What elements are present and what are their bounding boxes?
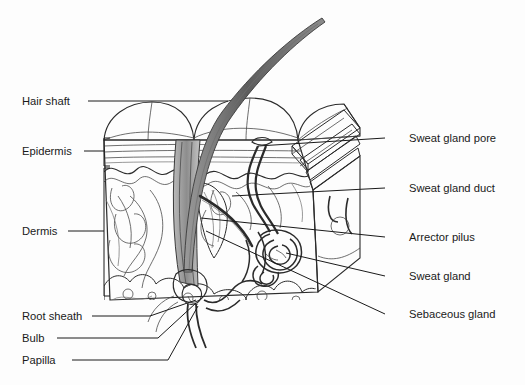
label-root-sheath[interactable]: Root sheath <box>22 300 196 322</box>
label-sebaceous-gland-text: Sebaceous gland <box>409 308 495 320</box>
label-hair-shaft[interactable]: Hair shaft <box>22 95 228 107</box>
label-sweat-gland-duct-text: Sweat gland duct <box>409 182 496 194</box>
label-arrector-pilus-text: Arrector pilus <box>409 231 475 243</box>
skin-ridges <box>292 110 360 190</box>
label-sweat-gland-text: Sweat gland <box>409 270 471 282</box>
sweat-gland-coil <box>253 230 301 286</box>
label-papilla-text: Papilla <box>22 354 56 366</box>
hair-shaft-curve <box>184 18 325 272</box>
label-sweat-gland-pore-text: Sweat gland pore <box>409 132 496 144</box>
skin-cross-section-diagram: Hair shaft Epidermis Dermis Root sheath … <box>0 0 525 385</box>
skin-internals <box>104 144 324 312</box>
label-dermis[interactable]: Dermis <box>22 225 104 237</box>
label-epidermis-text: Epidermis <box>22 145 72 157</box>
label-epidermis[interactable]: Epidermis <box>22 145 104 157</box>
side-panel <box>313 156 360 292</box>
label-sweat-gland[interactable]: Sweat gland <box>286 253 471 282</box>
label-sweat-gland-pore[interactable]: Sweat gland pore <box>258 132 496 146</box>
label-bulb-text: Bulb <box>22 332 44 344</box>
label-hair-shaft-text: Hair shaft <box>22 95 71 107</box>
label-dermis-text: Dermis <box>22 225 58 237</box>
label-root-sheath-text: Root sheath <box>22 310 82 322</box>
right-labels: Sweat gland pore Sweat gland duct Arrect… <box>201 132 496 320</box>
